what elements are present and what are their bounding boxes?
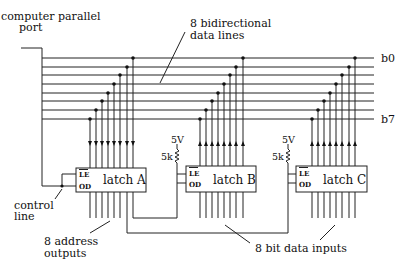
data-inputs-label: 8 bit data inputs — [255, 242, 347, 255]
latch-a-bus-taps — [88, 56, 135, 168]
parallel-port-bracket — [21, 48, 76, 186]
latch-b-supply-label: 5V — [171, 134, 184, 145]
latch-b-name: latch B — [213, 173, 256, 187]
latch-circuit-diagram: computer parallel port 8 bidirectional d… — [0, 0, 408, 275]
latch-c-data-inputs — [312, 192, 355, 218]
control-label-line2: line — [14, 210, 35, 223]
latch-a-name: latch A — [103, 173, 146, 187]
latch-c-le-pin: LE — [299, 169, 309, 178]
latch-b-le-pin: LE — [189, 169, 199, 178]
latch-b-data-inputs — [200, 192, 243, 218]
latch-c-name: latch C — [323, 173, 366, 187]
address-label-line2: outputs — [44, 247, 87, 260]
bit-b7-label: b7 — [381, 113, 395, 126]
bus-label-line2: data lines — [190, 29, 245, 42]
latch-c-resistor-label: 5k — [272, 151, 284, 162]
latch-c-od-pin: OD — [299, 180, 311, 189]
port-label-line2: port — [19, 21, 43, 34]
latch-b-resistor-label: 5k — [161, 151, 173, 162]
bit-b0-label: b0 — [381, 52, 395, 65]
latch-b-bus-taps — [198, 56, 245, 166]
port-label-line1: computer parallel — [1, 10, 101, 23]
latch-a-le-pin: LE — [79, 170, 89, 179]
latch-b-od-pin: OD — [189, 180, 201, 189]
latch-c-bus-taps — [310, 56, 357, 166]
latch-a-od-pin: OD — [79, 182, 91, 191]
latch-c-supply-label: 5V — [282, 134, 295, 145]
